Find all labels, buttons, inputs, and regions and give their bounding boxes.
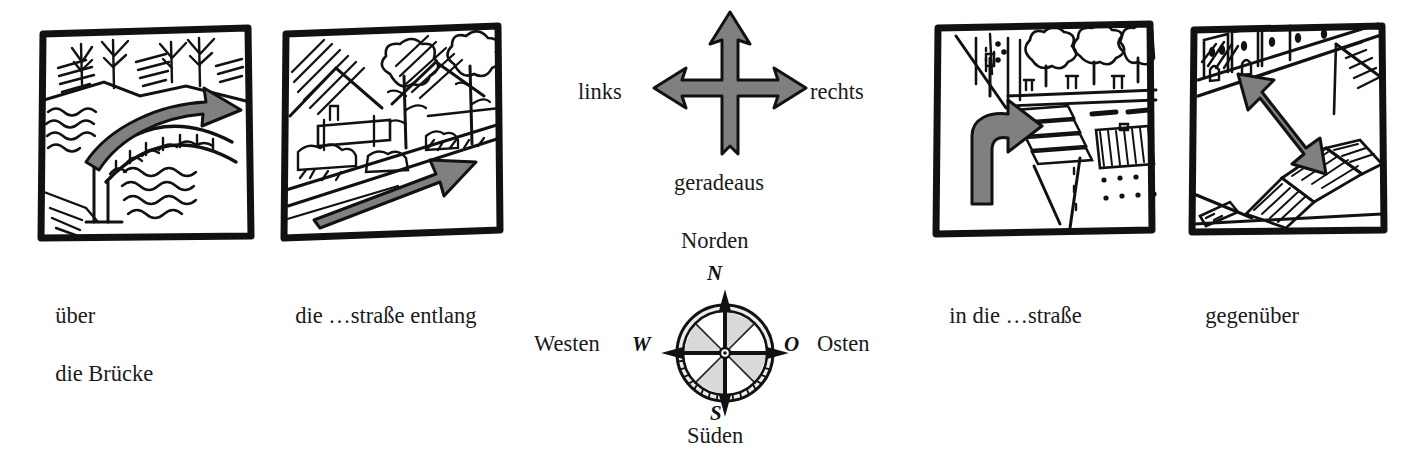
compass-rose [655, 283, 795, 423]
label-links: links [578, 79, 622, 105]
caption-bridge: über die Brücke [44, 272, 153, 388]
panel-opposite [1186, 18, 1390, 242]
panel-street-along [278, 20, 506, 242]
label-osten: Osten [817, 331, 870, 357]
panel-into-street [928, 18, 1160, 242]
bridge-over-river-sketch [36, 22, 256, 244]
label-rechts: rechts [810, 79, 864, 105]
label-w: W [632, 332, 651, 357]
label-norden: Norden [681, 228, 748, 254]
street-with-trees-sketch [278, 20, 506, 242]
buildings-across-square-sketch [1186, 18, 1390, 242]
direction-cross [646, 8, 814, 168]
caption-bridge-line2: die Brücke [55, 361, 153, 386]
caption-opposite: gegenüber [1194, 272, 1299, 330]
caption-into-street: in die …straße [938, 272, 1082, 330]
caption-street-along-line1: die …straße entlang [295, 303, 476, 328]
compass-rose-icon [655, 283, 795, 423]
label-geradeaus: geradeaus [674, 170, 764, 196]
three-way-arrow-cross [646, 8, 814, 168]
panel-bridge [36, 22, 256, 244]
label-westen: Westen [534, 331, 600, 357]
crosswalk-turn-sketch [928, 18, 1160, 242]
caption-opposite-line1: gegenüber [1205, 303, 1299, 328]
caption-into-street-line1: in die …straße [949, 303, 1081, 328]
caption-street-along: die …straße entlang [284, 272, 476, 330]
caption-bridge-line1: über [55, 303, 95, 328]
label-sueden: Süden [687, 423, 743, 449]
